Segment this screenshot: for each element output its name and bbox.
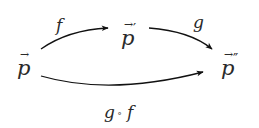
compose-operator: ∘ [117, 107, 122, 120]
double-prime-mark: ″ [233, 51, 238, 67]
label-g: g [104, 102, 115, 122]
node-p-double-prime: → p ″ [221, 48, 238, 80]
label-f: f [125, 102, 136, 122]
arrow-f [41, 28, 108, 49]
commutative-diagram: → p → p ′ → p ″ f g g ∘ f [0, 0, 259, 128]
prime-mark: ′ [133, 21, 136, 37]
diagram-canvas: → p → p ′ → p ″ f g g ∘ f [0, 0, 259, 128]
node-p-prime: → p ′ [121, 18, 136, 50]
node-p-symbol: p [17, 56, 30, 80]
arrow-label-f: f [54, 15, 65, 35]
arrow-label-g: g [193, 12, 204, 32]
arrow-label-g-compose-f: g ∘ f [104, 102, 136, 122]
node-p: → p [17, 48, 30, 80]
arrow-g-compose-f [41, 72, 203, 85]
